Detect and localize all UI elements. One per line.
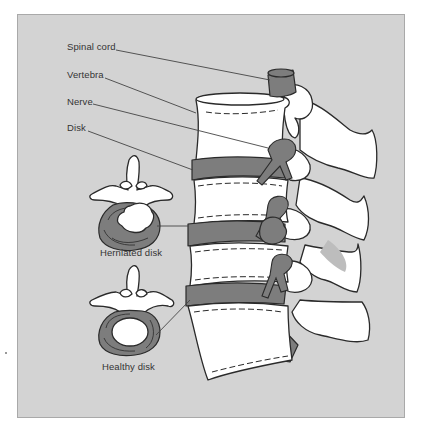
label-disk: Disk — [67, 122, 86, 133]
leader-spinal-cord — [116, 50, 270, 80]
herniated-disk-section — [90, 156, 173, 251]
label-vertebra: Vertebra — [67, 69, 104, 80]
label-healthy-disk: Healthy disk — [102, 361, 155, 372]
bottom-spinous-process — [292, 300, 370, 342]
vertebra-bottom — [188, 303, 292, 380]
healthy-nucleus — [112, 318, 148, 346]
label-nerve: Nerve — [67, 96, 93, 107]
herniation-bulge — [260, 217, 287, 244]
label-spinal-cord: Spinal cord — [67, 41, 116, 52]
leader-disk — [88, 131, 193, 170]
healthy-disk-section — [90, 266, 174, 356]
spine-illustration: .bone { fill: #ffffff; stroke: #2a2a2a; … — [0, 0, 430, 429]
leader-vertebra — [105, 78, 196, 113]
spinal-cord — [268, 69, 296, 97]
label-herniated-disk: Herniated disk — [100, 247, 162, 258]
